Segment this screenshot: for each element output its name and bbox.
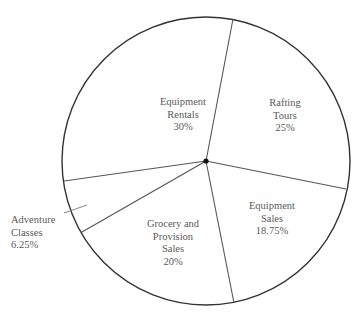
pie-chart — [0, 0, 359, 318]
label-adventure-classes: Adventure Classes 6.25% — [11, 214, 71, 252]
label-equipment-rentals: Equipment Rentals 30% — [138, 96, 228, 134]
label-rafting-tours: Rafting Tours 25% — [250, 97, 320, 135]
pie-center-dot — [203, 158, 208, 163]
label-grocery-provision-sales: Grocery and Provision Sales 20% — [128, 218, 218, 268]
label-equipment-sales: Equipment Sales 18.75% — [227, 200, 317, 238]
